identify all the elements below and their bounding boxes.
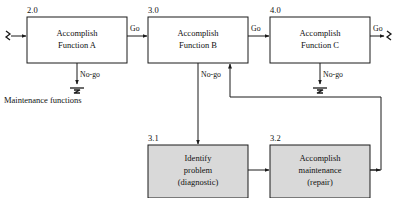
edge-label-go-2-to-3: Go — [130, 24, 140, 33]
node-4.0-line2: Function C — [301, 40, 339, 50]
node-2.0-number: 2.0 — [27, 5, 38, 15]
node-2.0-line1: Accomplish — [56, 28, 98, 38]
node-4.0[interactable]: 4.0 Accomplish Function C — [270, 5, 370, 63]
node-3.1-line3: (diagnostic) — [178, 177, 219, 187]
edge-label-nogo-4: No-go — [323, 70, 343, 79]
node-3.0-line2: Function B — [179, 40, 217, 50]
stop-terminator-4-icon — [313, 88, 327, 93]
node-3.0-number: 3.0 — [148, 5, 159, 15]
input-interface-terminator-icon — [6, 31, 10, 40]
function-flow-diagram: 2.0 Accomplish Function A 3.0 Accomplish… — [0, 0, 394, 198]
node-3.0[interactable]: 3.0 Accomplish Function B — [148, 5, 248, 63]
edge-label-nogo-2: No-go — [80, 70, 100, 79]
node-4.0-number: 4.0 — [270, 5, 281, 15]
node-4.0-line1: Accomplish — [299, 28, 341, 38]
node-3.0-line1: Accomplish — [177, 28, 219, 38]
edge-label-nogo-3: No-go — [201, 70, 221, 79]
maintenance-functions-caption: Maintenance functions — [4, 95, 82, 105]
node-3.2-line3: (repair) — [307, 177, 333, 187]
node-3.2[interactable]: 3.2 Accomplish maintenance (repair) — [270, 133, 370, 198]
output-interface-terminator-icon — [387, 31, 391, 40]
node-3.2-line2: maintenance — [299, 165, 342, 175]
node-3.1-number: 3.1 — [148, 133, 159, 143]
stop-terminator-2-icon — [70, 88, 84, 93]
node-3.1-line2: problem — [184, 165, 213, 175]
node-3.2-number: 3.2 — [270, 133, 281, 143]
node-2.0[interactable]: 2.0 Accomplish Function A — [27, 5, 127, 63]
node-3.1-line1: Identify — [185, 153, 213, 163]
edge-label-go-3-to-4: Go — [251, 24, 261, 33]
node-3.2-line1: Accomplish — [299, 153, 341, 163]
edge-label-go-4-out: Go — [373, 24, 383, 33]
node-2.0-line2: Function A — [58, 40, 97, 50]
